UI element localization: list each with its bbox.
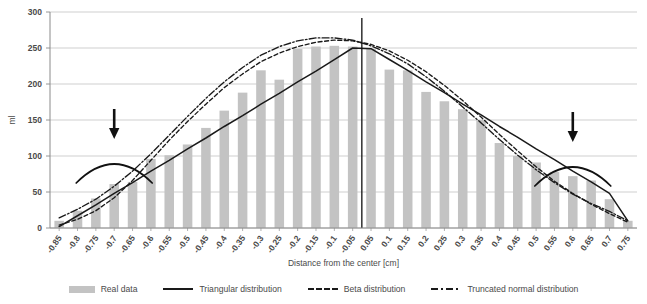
legend-swatch-bar-icon bbox=[69, 286, 95, 293]
y-axis-title: ml bbox=[7, 115, 17, 124]
svg-text:150: 150 bbox=[28, 115, 42, 125]
svg-text:-0.75: -0.75 bbox=[81, 233, 100, 255]
bar bbox=[623, 221, 633, 228]
legend-swatch-solid-line-icon bbox=[163, 288, 193, 290]
svg-text:0.05: 0.05 bbox=[358, 233, 376, 253]
svg-text:-0.4: -0.4 bbox=[212, 233, 229, 251]
svg-text:0.75: 0.75 bbox=[615, 233, 633, 253]
svg-text:0.1: 0.1 bbox=[379, 233, 394, 249]
svg-text:-0.55: -0.55 bbox=[155, 233, 174, 255]
bar bbox=[164, 155, 174, 228]
svg-text:0.35: 0.35 bbox=[468, 233, 486, 253]
svg-text:-0.05: -0.05 bbox=[338, 233, 357, 255]
svg-text:-0.25: -0.25 bbox=[265, 233, 284, 255]
bar bbox=[366, 49, 376, 228]
legend-swatch-dashed-line-icon bbox=[308, 288, 338, 290]
bar bbox=[201, 128, 211, 228]
svg-text:200: 200 bbox=[28, 79, 42, 89]
svg-text:Distance from the center [cm]: Distance from the center [cm] bbox=[288, 258, 399, 268]
svg-text:-0.15: -0.15 bbox=[301, 233, 320, 255]
svg-text:-0.6: -0.6 bbox=[139, 233, 156, 251]
svg-text:100: 100 bbox=[28, 151, 42, 161]
chart-annotations bbox=[76, 18, 611, 228]
bar bbox=[495, 143, 505, 228]
svg-text:-0.7: -0.7 bbox=[102, 233, 119, 251]
bar bbox=[421, 92, 431, 228]
right-arrow-head bbox=[568, 131, 578, 142]
line-dashed bbox=[59, 40, 628, 225]
x-axis-title: Distance from the center [cm] bbox=[288, 258, 399, 268]
svg-text:0.7: 0.7 bbox=[599, 233, 614, 249]
line-solid bbox=[59, 48, 628, 227]
x-axis-tick-labels: -0.85-0.8-0.75-0.7-0.65-0.6-0.55-0.5-0.4… bbox=[45, 233, 633, 255]
legend-item-truncated-normal-distribution: Truncated normal distribution bbox=[431, 284, 578, 294]
svg-text:0.45: 0.45 bbox=[505, 233, 523, 253]
svg-text:-0.35: -0.35 bbox=[228, 233, 247, 255]
legend-item-triangular-distribution: Triangular distribution bbox=[163, 284, 281, 294]
left-arrow-arc bbox=[76, 164, 152, 183]
svg-text:300: 300 bbox=[28, 7, 42, 17]
svg-text:-0.85: -0.85 bbox=[45, 233, 64, 255]
svg-text:-0.3: -0.3 bbox=[249, 233, 266, 251]
svg-text:0.2: 0.2 bbox=[416, 233, 431, 249]
line-dashdot bbox=[59, 38, 628, 221]
svg-text:-0.5: -0.5 bbox=[176, 233, 193, 251]
legend-label: Triangular distribution bbox=[199, 284, 281, 294]
svg-text:0.4: 0.4 bbox=[489, 233, 504, 249]
bar bbox=[275, 80, 285, 228]
bar bbox=[513, 156, 523, 228]
line-series-group bbox=[59, 38, 628, 227]
svg-text:-0.2: -0.2 bbox=[286, 233, 303, 251]
legend-item-beta-distribution: Beta distribution bbox=[308, 284, 406, 294]
svg-text:ml: ml bbox=[7, 115, 17, 124]
legend-swatch-dashdot-line-icon bbox=[431, 288, 461, 290]
svg-text:250: 250 bbox=[28, 43, 42, 53]
svg-text:0: 0 bbox=[37, 223, 42, 233]
legend-label: Real data bbox=[101, 284, 138, 294]
bar bbox=[183, 144, 193, 228]
svg-text:-0.45: -0.45 bbox=[191, 233, 210, 255]
left-arrow-head bbox=[109, 128, 119, 139]
svg-text:0.25: 0.25 bbox=[431, 233, 449, 253]
bar bbox=[458, 109, 468, 228]
svg-text:-0.8: -0.8 bbox=[66, 233, 83, 251]
chart-canvas: 050100150200250300 ml -0.85-0.8-0.75-0.7… bbox=[0, 0, 647, 304]
legend-label: Beta distribution bbox=[344, 284, 406, 294]
bar bbox=[128, 182, 138, 228]
svg-text:-0.65: -0.65 bbox=[118, 233, 137, 255]
svg-text:50: 50 bbox=[33, 187, 43, 197]
bar bbox=[440, 101, 450, 228]
bar bbox=[330, 46, 340, 228]
bar bbox=[348, 47, 358, 228]
bar bbox=[256, 70, 266, 228]
chart-legend: Real data Triangular distribution Beta d… bbox=[0, 278, 647, 300]
svg-text:-0.1: -0.1 bbox=[322, 233, 339, 251]
svg-text:0.65: 0.65 bbox=[578, 233, 596, 253]
svg-text:0.6: 0.6 bbox=[562, 233, 577, 249]
svg-text:0.55: 0.55 bbox=[541, 233, 559, 253]
bar bbox=[476, 120, 486, 228]
legend-label: Truncated normal distribution bbox=[467, 284, 578, 294]
bar-series-real-data bbox=[54, 46, 632, 228]
y-axis-tick-labels: 050100150200250300 bbox=[28, 7, 42, 233]
bar bbox=[605, 199, 615, 228]
bar bbox=[568, 176, 578, 228]
bar bbox=[385, 70, 395, 228]
bar bbox=[293, 49, 303, 228]
svg-text:0.15: 0.15 bbox=[395, 233, 413, 253]
legend-item-real-data: Real data bbox=[69, 284, 138, 294]
svg-text:0.5: 0.5 bbox=[526, 233, 541, 249]
chart-figure: 050100150200250300 ml -0.85-0.8-0.75-0.7… bbox=[0, 0, 647, 304]
bar bbox=[403, 70, 413, 228]
svg-text:0.3: 0.3 bbox=[452, 233, 467, 249]
